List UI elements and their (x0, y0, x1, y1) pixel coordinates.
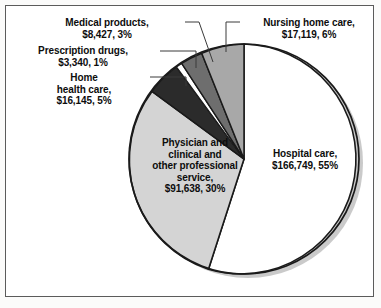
pie-label-medical-products: Medical products, $8,427, 3% (32, 17, 182, 40)
pie-label-nursing-home-care: Nursing home care, $17,119, 6% (244, 17, 374, 40)
pie-chart-figure: Medical products, $8,427, 3% Prescriptio… (0, 0, 381, 308)
pie-label-hospital-care: Hospital care, $166,749, 55% (253, 148, 357, 171)
pie-label-prescription-drugs: Prescription drugs, $3,340, 1% (8, 45, 158, 68)
pie-label-home-health-care: Home health care, $16,145, 5% (20, 72, 148, 107)
pie-label-physician-clinical: Physician and clinical and other profess… (139, 137, 251, 195)
